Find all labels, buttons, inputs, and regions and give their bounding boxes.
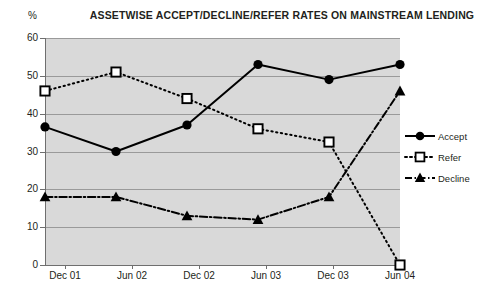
data-point-refer-4 xyxy=(324,137,333,146)
data-point-accept-3 xyxy=(253,60,262,69)
legend-item-refer: Refer xyxy=(404,149,482,170)
legend-marker-decline xyxy=(404,170,436,186)
data-point-accept-0 xyxy=(40,122,49,131)
legend-label-refer: Refer xyxy=(438,152,461,163)
legend-marker-accept xyxy=(404,128,436,144)
data-point-refer-2 xyxy=(182,94,191,103)
series-accept xyxy=(40,60,404,156)
chart-legend: Accept Refer Decline xyxy=(404,128,482,191)
legend-item-decline: Decline xyxy=(404,170,482,191)
data-point-refer-5 xyxy=(395,260,404,269)
data-point-decline-5 xyxy=(395,86,406,96)
data-point-refer-1 xyxy=(111,67,120,76)
legend-label-accept: Accept xyxy=(438,131,467,142)
data-point-accept-2 xyxy=(182,120,191,129)
chart-container: ASSETWISE ACCEPT/DECLINE/REFER RATES ON … xyxy=(0,0,482,297)
data-point-refer-3 xyxy=(253,124,262,133)
series-decline xyxy=(40,86,406,224)
legend-label-decline: Decline xyxy=(438,173,470,184)
data-point-accept-1 xyxy=(111,147,120,156)
data-point-accept-5 xyxy=(395,60,404,69)
data-point-refer-0 xyxy=(40,86,49,95)
data-point-decline-4 xyxy=(324,192,335,202)
legend-item-accept: Accept xyxy=(404,128,482,149)
data-point-accept-4 xyxy=(324,75,333,84)
legend-marker-refer xyxy=(404,149,436,165)
series-refer xyxy=(40,67,404,269)
